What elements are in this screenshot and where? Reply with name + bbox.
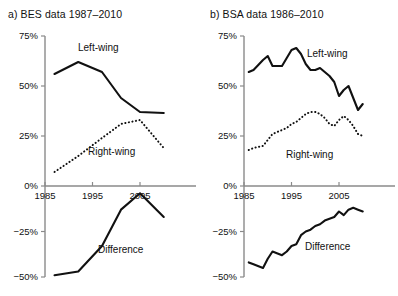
y-tick-label: 25% xyxy=(218,130,238,141)
panel-bsa: b) BSA data 1986–2010 75%50%25%0%−25%−50… xyxy=(199,0,398,296)
series-label-left-wing: Left-wing xyxy=(78,42,119,53)
y-tick-label: 75% xyxy=(218,30,238,41)
y-tick-label: −25% xyxy=(13,226,38,237)
x-tick-label: 1995 xyxy=(281,190,302,201)
series-label-difference: Difference xyxy=(98,244,144,255)
x-tick-label: 2005 xyxy=(328,190,349,201)
x-tick-label: 1985 xyxy=(233,190,254,201)
series-line-right-wing xyxy=(249,112,363,150)
y-tick-label: 50% xyxy=(218,80,238,91)
series-line-difference xyxy=(249,208,363,268)
y-tick-label: 25% xyxy=(19,130,39,141)
series-label-left-wing: Left-wing xyxy=(307,48,348,59)
y-tick-label: 75% xyxy=(19,30,39,41)
series-label-right-wing: Right-wing xyxy=(286,149,333,160)
figure-two-panel-chart: a) BES data 1987–2010 75%50%25%0%−25%−50… xyxy=(0,0,398,296)
x-tick-label: 1995 xyxy=(82,190,103,201)
y-tick-label: 50% xyxy=(19,80,39,91)
y-tick-label: −50% xyxy=(212,271,237,282)
panel-bes: a) BES data 1987–2010 75%50%25%0%−25%−50… xyxy=(0,0,199,296)
y-tick-label: −25% xyxy=(212,226,237,237)
series-line-left-wing xyxy=(55,62,164,113)
panel-b-plot: 75%50%25%0%−25%−50%198519952005Left-wing… xyxy=(199,0,398,296)
series-line-difference xyxy=(55,193,164,275)
series-label-difference: Difference xyxy=(305,241,351,252)
series-label-right-wing: Right-wing xyxy=(88,146,135,157)
y-tick-label: −50% xyxy=(13,271,38,282)
x-tick-label: 1985 xyxy=(34,190,55,201)
panel-a-plot: 75%50%25%0%−25%−50%198519952005Left-wing… xyxy=(0,0,199,296)
